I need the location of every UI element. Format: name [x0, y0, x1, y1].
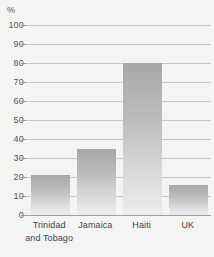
gridline	[26, 158, 211, 159]
bar	[31, 175, 70, 215]
bar	[123, 63, 162, 215]
x-axis-category-label-line: Trinidad	[33, 220, 66, 230]
gridline	[26, 120, 211, 121]
plot-area	[26, 25, 211, 215]
gridline	[26, 44, 211, 45]
gridline	[26, 25, 211, 26]
x-axis-category-label-line: and Tobago	[20, 232, 78, 245]
bar-chart-figure: % 1009080706050403020100 Trinidadand Tob…	[0, 0, 214, 257]
gridline	[26, 82, 211, 83]
x-axis-category-label-line: Haiti	[132, 220, 151, 230]
gridline	[26, 139, 211, 140]
bar	[169, 185, 208, 215]
x-axis-category-label: UK	[159, 219, 214, 232]
y-axis-unit-label: %	[7, 5, 15, 15]
bar	[77, 149, 116, 216]
x-axis-category-labels: Trinidadand TobagoJamaicaHaitiUK	[26, 219, 211, 257]
gridline	[26, 101, 211, 102]
gridline	[26, 63, 211, 64]
x-axis-category-label-line: UK	[182, 220, 195, 230]
x-axis-category-label-line: Jamaica	[78, 220, 112, 230]
